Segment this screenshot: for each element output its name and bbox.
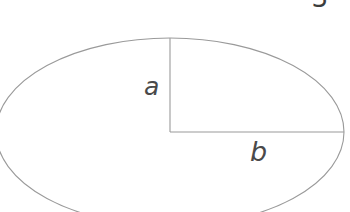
figure-number: 3 xyxy=(311,0,328,11)
ellipse-figure: a b 3 xyxy=(0,0,350,212)
ellipse-outline xyxy=(0,38,344,212)
ellipse-diagram-canvas xyxy=(0,0,350,212)
semi-minor-axis-label: a xyxy=(144,74,159,99)
semi-major-axis-label: b xyxy=(250,138,267,165)
